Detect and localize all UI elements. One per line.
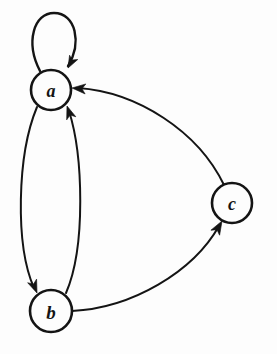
edge-a-to-a-arrowhead bbox=[64, 55, 78, 70]
edge-b-to-c-path bbox=[72, 226, 219, 311]
state-transition-diagram: a b c bbox=[0, 0, 277, 354]
edge-layer bbox=[21, 13, 227, 311]
diagram-canvas: a b c bbox=[0, 0, 277, 354]
edge-c-to-a[interactable] bbox=[72, 83, 224, 185]
node-a-label: a bbox=[47, 81, 56, 101]
node-c[interactable]: c bbox=[212, 183, 252, 223]
edge-a-to-a[interactable] bbox=[33, 13, 78, 71]
edge-b-to-a-arrowhead bbox=[62, 104, 75, 119]
edge-a-to-b[interactable] bbox=[21, 107, 42, 295]
edge-b-to-a-path bbox=[66, 111, 80, 293]
edge-b-to-c[interactable] bbox=[72, 219, 226, 312]
node-b-label: b bbox=[46, 302, 56, 323]
node-a[interactable]: a bbox=[31, 70, 71, 110]
edge-a-to-b-path bbox=[21, 107, 37, 288]
node-b[interactable]: b bbox=[30, 290, 72, 332]
node-c-label: c bbox=[228, 194, 236, 214]
edge-c-to-a-path bbox=[78, 88, 224, 185]
edge-b-to-a[interactable] bbox=[62, 104, 80, 293]
